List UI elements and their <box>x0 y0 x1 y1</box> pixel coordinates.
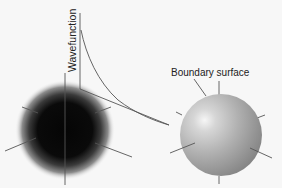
boundary-surface-sphere: Boundary surface <box>170 67 272 184</box>
boundary-surface-label: Boundary surface <box>171 67 250 78</box>
axis-line <box>176 112 182 115</box>
axis-label: Wavefunction <box>66 9 78 72</box>
electron-density-sphere <box>5 73 132 185</box>
diagram-svg: Wavefunction Boundary surface <box>0 0 282 188</box>
orbital-diagram: Wavefunction Boundary surface <box>0 0 282 188</box>
shaded-sphere <box>180 94 262 176</box>
axis-line <box>257 115 265 118</box>
label-leader-line <box>194 79 206 96</box>
